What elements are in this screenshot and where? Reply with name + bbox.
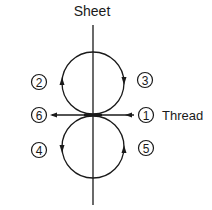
arrow-left-icon <box>50 113 57 118</box>
step-2-label: 2 <box>36 76 43 90</box>
arrow-left-icon <box>125 113 132 118</box>
step-4-label: 4 <box>36 144 43 158</box>
step-3-label: 3 <box>142 74 149 88</box>
arrow-up-icon <box>122 145 127 153</box>
step-1-label: 1 <box>143 109 150 123</box>
step-1-marker: 1 <box>139 108 154 123</box>
step-6-marker: 6 <box>32 108 47 123</box>
sheet-label: Sheet <box>74 3 111 19</box>
step-2-marker: 2 <box>32 75 47 90</box>
arrow-up-icon <box>60 77 65 85</box>
thread-label: Thread <box>162 108 203 123</box>
thread-loop-diagram: Sheet 2 3 6 1 Thread 4 5 <box>0 0 212 210</box>
step-6-label: 6 <box>36 109 43 123</box>
step-4-marker: 4 <box>32 143 47 158</box>
step-5-marker: 5 <box>139 141 154 156</box>
step-3-marker: 3 <box>138 73 153 88</box>
step-5-label: 5 <box>143 142 150 156</box>
arrow-down-icon <box>122 77 127 85</box>
arrow-down-icon <box>60 145 65 153</box>
